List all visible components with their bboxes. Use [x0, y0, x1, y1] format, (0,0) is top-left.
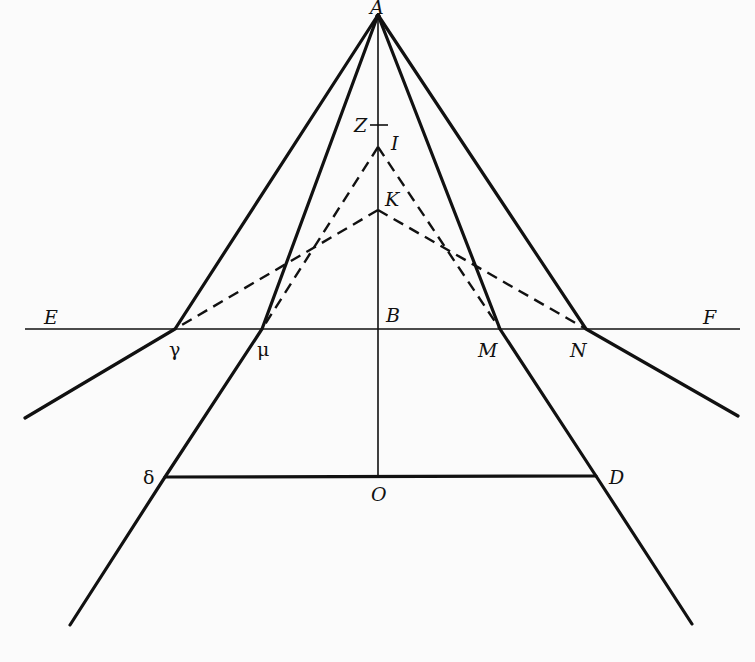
label-B: B — [386, 306, 400, 325]
label-mu: μ — [257, 340, 269, 359]
label-N: N — [570, 341, 587, 360]
label-gamma: γ — [169, 340, 180, 359]
label-A: A — [370, 0, 384, 17]
dashed-K-N — [378, 210, 586, 329]
label-Z: Z — [354, 116, 367, 135]
label-E: E — [44, 308, 58, 327]
ray-A-M-D — [378, 15, 692, 624]
line-delta-D — [165, 476, 596, 477]
ray-A-mu-delta — [70, 15, 378, 625]
label-F: F — [703, 308, 716, 327]
label-I: I — [391, 134, 399, 153]
label-D: D — [609, 468, 624, 487]
label-O: O — [371, 485, 387, 504]
dashed-K-gamma — [175, 210, 378, 329]
ray-A-N — [378, 15, 738, 416]
label-delta: δ — [143, 468, 154, 487]
optics-diagram: A Z I K E F B γ μ M N δ D O — [0, 0, 755, 662]
label-K: K — [385, 190, 399, 209]
diagram-canvas — [0, 0, 755, 662]
label-M: M — [478, 341, 497, 360]
ray-A-gamma — [25, 15, 378, 418]
